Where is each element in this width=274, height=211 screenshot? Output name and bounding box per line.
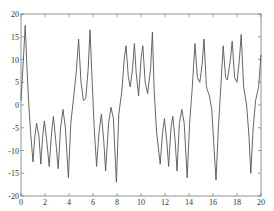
- x-tick-label: 16: [209, 198, 217, 207]
- x-tick-label: 10: [137, 198, 145, 207]
- x-axis-ticks: 02468101214161820: [19, 14, 265, 207]
- signal-line: [21, 25, 261, 182]
- x-tick-label: 8: [115, 198, 119, 207]
- x-tick-label: 12: [161, 198, 169, 207]
- y-tick-label: -10: [8, 147, 19, 156]
- y-axis-ticks: -20-15-10-505101520: [8, 10, 261, 201]
- x-tick-label: 20: [257, 198, 265, 207]
- x-tick-label: 0: [19, 198, 23, 207]
- line-chart: 02468101214161820 -20-15-10-505101520: [0, 0, 274, 211]
- x-tick-label: 6: [91, 198, 95, 207]
- y-tick-label: -5: [12, 124, 19, 133]
- y-tick-label: 5: [15, 78, 19, 87]
- x-tick-label: 18: [233, 198, 241, 207]
- y-tick-label: -15: [8, 169, 19, 178]
- x-tick-label: 4: [67, 198, 71, 207]
- plot-frame: [21, 14, 261, 196]
- y-tick-label: 0: [15, 101, 19, 110]
- y-tick-label: 10: [11, 56, 19, 65]
- y-tick-label: 15: [11, 33, 19, 42]
- x-tick-label: 14: [185, 198, 193, 207]
- y-tick-label: 20: [11, 10, 19, 19]
- y-tick-label: -20: [8, 192, 19, 201]
- x-tick-label: 2: [43, 198, 47, 207]
